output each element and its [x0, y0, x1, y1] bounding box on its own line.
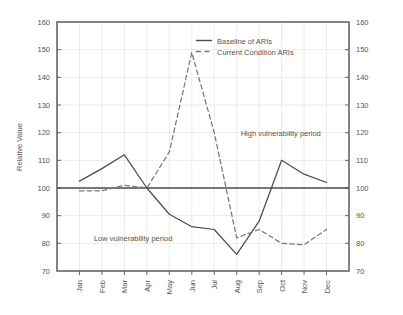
x-axis-tick-label: Oct — [278, 279, 287, 292]
y-axis-right-tick-label: 150 — [356, 45, 369, 54]
y-axis-left-tick-label: 70 — [42, 267, 50, 276]
y-axis-right-tick-label: 140 — [356, 73, 369, 82]
x-axis-tick-label: Nov — [300, 280, 309, 294]
x-axis-tick-label: Dec — [323, 280, 332, 294]
y-axis-left-tick-label: 130 — [37, 101, 50, 110]
annotation-high-vulnerability: High vulnerability period — [241, 129, 321, 138]
y-axis-right-tick-label: 110 — [356, 156, 368, 165]
y-axis-left-tick-label: 160 — [37, 18, 50, 27]
y-axis-left-tick-label: 90 — [42, 211, 50, 220]
x-axis-tick-label: Feb — [98, 280, 107, 293]
x-axis-tick-label: Aug — [233, 280, 242, 293]
y-axis-right-tick-label: 160 — [356, 18, 369, 27]
x-axis-tick-label: Jun — [188, 280, 197, 292]
y-axis-left-tick-label: 140 — [37, 73, 50, 82]
relative-value-line-chart: 708090100110120130140150160 708090100110… — [0, 0, 403, 315]
y-axis-right-tick-label: 90 — [356, 211, 364, 220]
y-axis-right-tick-label: 120 — [356, 128, 369, 137]
x-axis-tick-label: Mar — [120, 280, 129, 293]
y-axis-right-tick-label: 80 — [356, 239, 364, 248]
y-axis-right-tick-label: 70 — [356, 267, 364, 276]
chart-background — [0, 0, 403, 315]
y-axis-left-tick-label: 150 — [37, 45, 50, 54]
legend-label-current: Current Condition ARIs — [217, 48, 294, 57]
x-axis-tick-label: Jul — [210, 280, 219, 290]
y-axis-right-tick-label: 130 — [356, 101, 369, 110]
y-axis-left-tick-label: 100 — [37, 184, 50, 193]
legend-label-baseline: Baseline of ARIs — [217, 37, 272, 46]
y-axis-left-tick-label: 110 — [38, 156, 50, 165]
y-axis-title: Relative Value — [15, 123, 24, 171]
y-axis-left-tick-label: 120 — [37, 128, 50, 137]
x-axis-tick-label: Sep — [255, 280, 264, 293]
annotation-low-vulnerability: Low vulnerability period — [94, 234, 172, 243]
chart-figure: 708090100110120130140150160 708090100110… — [0, 0, 403, 315]
x-axis-tick-label: Jan — [75, 280, 84, 292]
y-axis-left-tick-label: 80 — [42, 239, 50, 248]
y-axis-right-tick-label: 100 — [356, 184, 369, 193]
x-axis-tick-label: Apr — [143, 279, 152, 291]
x-axis-tick-label: May — [165, 280, 174, 294]
